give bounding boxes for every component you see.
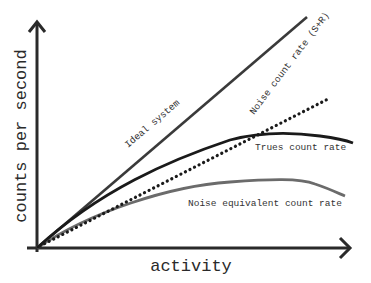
x-axis-label: activity bbox=[150, 257, 232, 276]
nec-label: Noise equivalent count rate bbox=[188, 198, 342, 209]
trues-count-rate-label: Trues count rate bbox=[255, 142, 347, 153]
y-axis-label: counts per second bbox=[12, 49, 31, 222]
ideal-system-label: Ideal system bbox=[123, 97, 182, 150]
nec-curve bbox=[37, 180, 345, 248]
count-rate-diagram: counts per second activity Ideal system … bbox=[0, 0, 371, 283]
noise-count-rate-label: Noise count rate (S+R) bbox=[248, 10, 332, 117]
axes bbox=[27, 22, 350, 258]
curves bbox=[37, 17, 353, 248]
